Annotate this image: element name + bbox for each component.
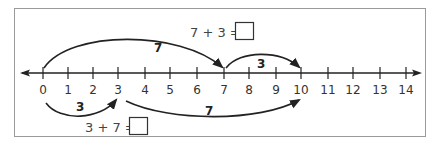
equation-text: 7 + 3 = — [190, 25, 241, 40]
tick-label: 11 — [320, 83, 335, 97]
tick-label: 14 — [398, 83, 413, 97]
jump-label: 7 — [154, 41, 162, 55]
tick-label: 3 — [114, 83, 122, 97]
tick-label: 4 — [141, 83, 149, 97]
tick-label: 6 — [193, 83, 201, 97]
tick-label: 0 — [39, 83, 47, 97]
tick-label: 13 — [372, 83, 387, 97]
tick-label: 10 — [293, 83, 308, 97]
tick-label: 1 — [64, 83, 72, 97]
tick-label: 9 — [272, 83, 280, 97]
tick-label: 12 — [345, 83, 360, 97]
top-jump-0-to-7: 7 — [44, 39, 222, 68]
top-equation: 7 + 3 = — [190, 23, 254, 41]
jump-label: 7 — [205, 104, 213, 118]
tick-label: 7 — [220, 83, 228, 97]
bottom-equation: 3 + 7 = — [85, 118, 148, 136]
top-jump-7-to-10: 3 — [226, 54, 299, 71]
jump-label: 3 — [257, 57, 265, 71]
bottom-jump-0-to-3: 3 — [46, 100, 116, 116]
number-line-diagram: 01234567891011121314 7 3 3 7 7 + 3 = 3 +… — [0, 0, 443, 146]
tick-label: 8 — [245, 83, 253, 97]
bottom-jump-3-to-10: 7 — [126, 100, 299, 118]
jump-label: 3 — [76, 100, 84, 114]
tick-label: 5 — [166, 83, 174, 97]
number-line-axis — [20, 70, 422, 77]
tick-marks: 01234567891011121314 — [39, 67, 413, 97]
tick-label: 2 — [89, 83, 97, 97]
answer-box[interactable] — [236, 23, 254, 40]
answer-box[interactable] — [130, 118, 148, 135]
equation-text: 3 + 7 = — [85, 120, 136, 135]
